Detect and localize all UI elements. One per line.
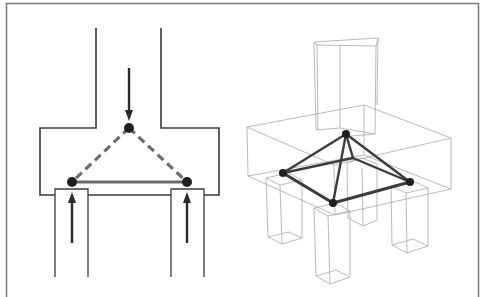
column-wireframe	[314, 38, 378, 136]
left-node	[279, 169, 287, 177]
member-left-front	[283, 173, 333, 203]
column-load-arrow-icon	[125, 68, 133, 121]
top-node	[124, 123, 134, 133]
front-node	[329, 199, 337, 207]
bottom-right-node	[182, 177, 192, 187]
apex-node	[342, 130, 350, 138]
right-pile-reaction-arrow-icon	[183, 192, 191, 243]
strut-and-tie-diagram	[0, 0, 483, 297]
member-apex-front	[333, 134, 346, 203]
space-truss	[279, 130, 414, 207]
member-front-right	[333, 182, 410, 203]
bottom-left-node	[67, 177, 77, 187]
pile-wireframe-front	[314, 203, 350, 284]
right-node	[406, 178, 414, 186]
figure-canvas	[0, 0, 483, 297]
right-strut	[129, 128, 187, 182]
wireframe-view-3d	[247, 38, 451, 284]
pile-wireframe-left	[266, 173, 302, 244]
pile-wireframe-right	[391, 181, 428, 253]
left-strut	[72, 128, 129, 182]
section-view-2d	[40, 28, 219, 277]
left-pile-reaction-arrow-icon	[68, 192, 76, 243]
